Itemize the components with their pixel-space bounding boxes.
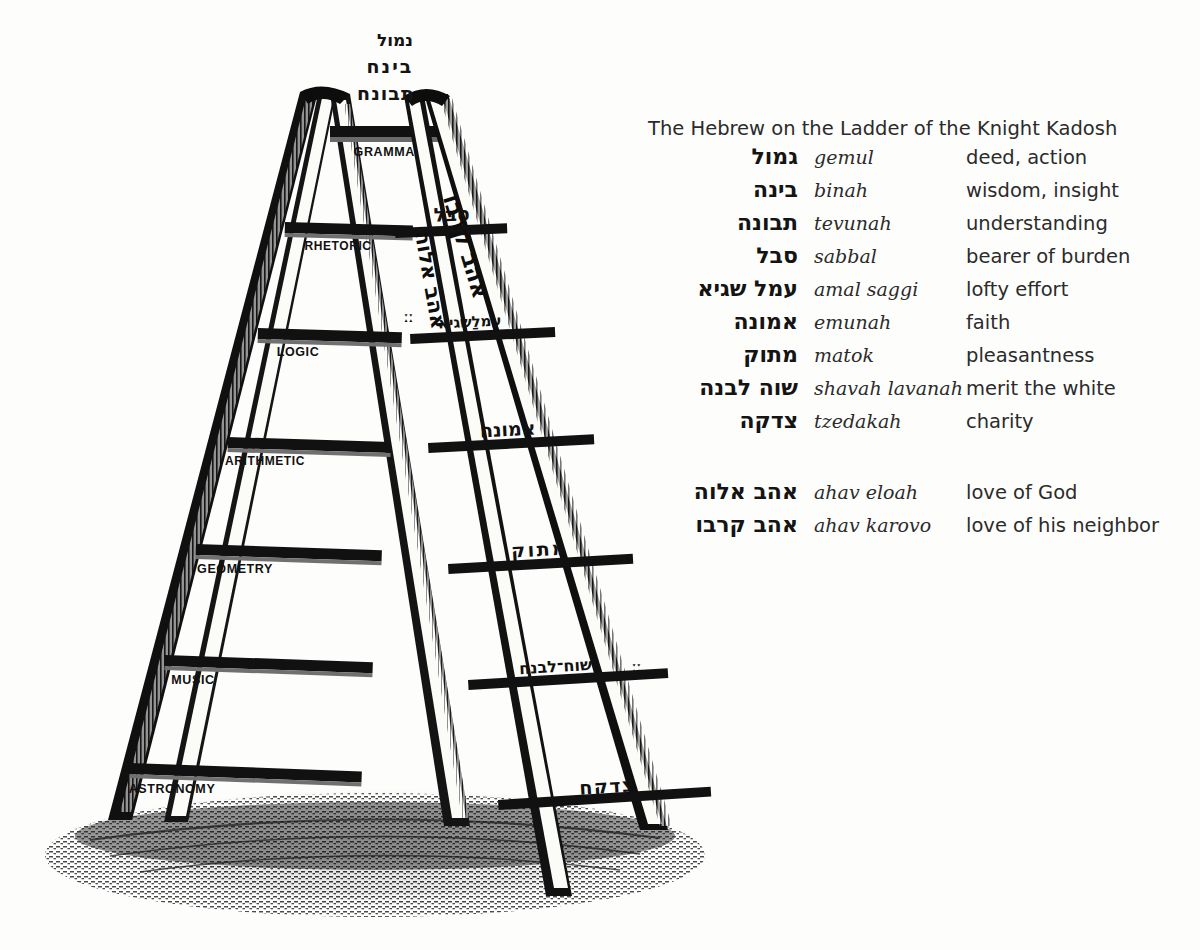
top-hebrew-inscription: נמול בינח תבונח — [357, 30, 415, 104]
rung-label-emunah: אמונח — [479, 417, 536, 442]
ground-shadow — [40, 788, 720, 920]
glossary-english: faith — [962, 311, 1010, 334]
glossary-english: love of God — [962, 481, 1078, 504]
rung-emunah: אמונח — [428, 417, 594, 453]
glossary-rows-group-one: גמול gemul deed, action בינה binah wisdo… — [648, 144, 1188, 441]
rung-label-arithmetic: ARITHMETIC — [225, 454, 305, 468]
rung-label-matok: מתוק — [510, 536, 568, 562]
glossary-english: deed, action — [962, 146, 1087, 169]
rung-mark-colon-2: ːː — [632, 659, 641, 675]
glossary-hebrew: תבונה — [648, 210, 800, 235]
glossary-translit: emunah — [800, 311, 962, 333]
glossary-translit: amal saggi — [800, 278, 962, 300]
rung-mark-colon-1: ːː — [404, 309, 413, 325]
glossary-english: bearer of burden — [962, 245, 1130, 268]
top-hebrew-binah: בינח — [367, 55, 414, 77]
ladder-engraving-illustration: GRAMMAR RHETORIC LOGIC ARITHMETIC — [0, 0, 740, 950]
rung-arithmetic: ARITHMETIC — [225, 437, 391, 468]
rung-label-music: MUSIC — [171, 673, 214, 687]
glossary-row: אהב אלוה ahav eloah love of God — [648, 479, 1188, 512]
glossary-hebrew: אהב קרבו — [648, 512, 800, 537]
glossary-translit: shavah lavanah — [800, 377, 962, 399]
glossary-row: סבל sabbal bearer of burden — [648, 243, 1188, 276]
glossary-translit: matok — [800, 344, 962, 366]
glossary-hebrew: סבל — [648, 243, 800, 268]
glossary-hebrew: עמל שגיא — [648, 276, 800, 301]
glossary-row: צדקה tzedakah charity — [648, 408, 1188, 441]
rung-label-logic: LOGIC — [277, 345, 320, 359]
left-ladder-liberal-arts: GRAMMAR RHETORIC LOGIC ARITHMETIC — [108, 86, 470, 826]
glossary-translit: tzedakah — [800, 410, 962, 432]
glossary-title: The Hebrew on the Ladder of the Knight K… — [648, 116, 1188, 142]
glossary-hebrew: גמול — [648, 144, 800, 169]
rung-label-geometry: GEOMETRY — [197, 562, 273, 576]
glossary-row: עמל שגיא amal saggi lofty effort — [648, 276, 1188, 309]
rung-music: MUSIC — [164, 655, 372, 687]
rung-shavah-lavanah: שוח־לבנח ːː — [468, 655, 668, 690]
glossary-english: love of his neighbor — [962, 514, 1159, 537]
glossary-group-separator — [648, 441, 1188, 479]
glossary-translit: ahav eloah — [800, 481, 962, 503]
glossary-hebrew: שוה לבנה — [648, 375, 800, 400]
glossary-hebrew: מתוק — [648, 342, 800, 367]
rung-rhetoric: RHETORIC — [285, 222, 413, 253]
glossary-rows-group-two: אהב אלוה ahav eloah love of God אהב קרבו… — [648, 479, 1188, 545]
top-hebrew-gemul: נמול — [377, 30, 413, 50]
glossary-translit: binah — [800, 179, 962, 201]
glossary-hebrew: צדקה — [648, 408, 800, 433]
glossary-hebrew: אהב אלוה — [648, 479, 800, 504]
glossary-english: understanding — [962, 212, 1108, 235]
glossary-translit: sabbal — [800, 245, 962, 267]
glossary-row: תבונה tevunah understanding — [648, 210, 1188, 243]
glossary-english: merit the white — [962, 377, 1116, 400]
rung-matok: מתוק — [448, 536, 633, 574]
glossary-translit: ahav karovo — [800, 514, 962, 536]
rung-label-rhetoric: RHETORIC — [304, 239, 371, 253]
glossary-row: אמונה emunah faith — [648, 309, 1188, 342]
top-hebrew-tevunah: תבונח — [357, 82, 415, 104]
hebrew-glossary-panel: The Hebrew on the Ladder of the Knight K… — [648, 116, 1188, 545]
glossary-english: pleasantness — [962, 344, 1095, 367]
glossary-row: אהב קרבו ahav karovo love of his neighbo… — [648, 512, 1188, 545]
glossary-english: lofty effort — [962, 278, 1068, 301]
glossary-english: charity — [962, 410, 1034, 433]
glossary-row: שוה לבנה shavah lavanah merit the white — [648, 375, 1188, 408]
glossary-row: מתוק matok pleasantness — [648, 342, 1188, 375]
rung-label-astronomy: ASTRONOMY — [129, 782, 216, 796]
glossary-row: בינה binah wisdom, insight — [648, 177, 1188, 210]
glossary-hebrew: אמונה — [648, 309, 800, 334]
glossary-hebrew: בינה — [648, 177, 800, 202]
glossary-english: wisdom, insight — [962, 179, 1119, 202]
glossary-translit: tevunah — [800, 212, 962, 234]
glossary-row: גמול gemul deed, action — [648, 144, 1188, 177]
glossary-translit: gemul — [800, 146, 962, 168]
